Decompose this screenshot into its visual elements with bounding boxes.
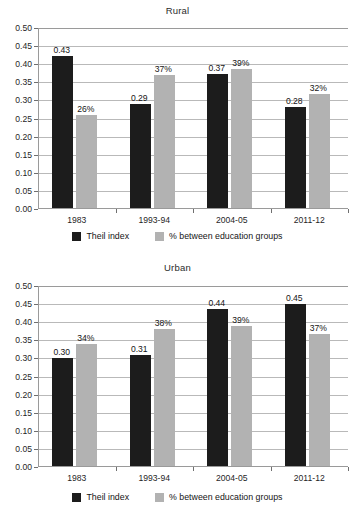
y-tick-mark: [34, 395, 38, 396]
bar-education: [76, 115, 97, 208]
y-tick-label: 0.35: [15, 78, 32, 87]
bar-theil: [207, 74, 228, 208]
bar-theil: [52, 358, 73, 466]
y-tick-label: 0.00: [15, 205, 32, 214]
bar-value-label: 0.30: [45, 348, 78, 357]
bar-education: [231, 326, 252, 466]
y-tick-label: 0.15: [15, 408, 32, 417]
x-tick-label: 2011-12: [271, 474, 349, 483]
y-tick-mark: [34, 286, 38, 287]
y-tick-mark: [34, 209, 38, 210]
bar-value-label: 39%: [224, 316, 257, 325]
legend-item-theil-urban: Theil index: [72, 493, 129, 502]
y-tick-label: 0.20: [15, 132, 32, 141]
y-tick-label: 0.10: [15, 169, 32, 178]
y-tick-label: 0.50: [15, 282, 32, 291]
x-tick-mark: [348, 467, 349, 471]
y-tick-mark: [34, 431, 38, 432]
bar-value-label: 37%: [147, 65, 180, 74]
legend-rural: Theil index % between education groups: [0, 232, 355, 241]
y-tick-mark: [34, 304, 38, 305]
y-tick-label: 0.40: [15, 60, 32, 69]
y-tick-mark: [34, 119, 38, 120]
bar-value-label: 32%: [302, 84, 335, 93]
x-tick-mark: [193, 209, 194, 213]
bar-value-label: 34%: [69, 334, 102, 343]
x-tick-label: 2011-12: [271, 216, 349, 225]
legend-item-theil-rural: Theil index: [72, 232, 129, 241]
y-tick-label: 0.25: [15, 114, 32, 123]
bar-theil: [285, 107, 306, 208]
y-tick-mark: [34, 191, 38, 192]
x-tick-mark: [116, 467, 117, 471]
legend-swatch-theil-icon: [72, 232, 81, 241]
x-tick-mark: [348, 209, 349, 213]
y-tick-mark: [34, 155, 38, 156]
bar-theil: [207, 309, 228, 466]
y-tick-label: 0.30: [15, 354, 32, 363]
legend-swatch-theil-icon: [72, 493, 81, 502]
y-tick-mark: [34, 173, 38, 174]
gridline: [39, 46, 348, 47]
y-tick-label: 0.45: [15, 42, 32, 51]
y-tick-mark: [34, 413, 38, 414]
gridline: [39, 64, 348, 65]
plot-area-rural: [38, 28, 348, 209]
y-tick-label: 0.35: [15, 336, 32, 345]
y-tick-label: 0.15: [15, 150, 32, 159]
bar-education: [154, 329, 175, 466]
bar-value-label: 39%: [224, 59, 257, 68]
x-tick-label: 1993-94: [116, 474, 194, 483]
bar-value-label: 0.45: [278, 294, 311, 303]
chart-panel-urban: Urban 0.000.050.100.150.200.250.300.350.…: [0, 255, 355, 521]
plot-rural: 0.000.050.100.150.200.250.300.350.400.45…: [0, 0, 355, 218]
y-tick-mark: [34, 467, 38, 468]
bar-value-label: 0.29: [123, 94, 156, 103]
bar-education: [309, 94, 330, 208]
legend-item-education-urban: % between education groups: [155, 493, 282, 502]
plot-urban: 0.000.050.100.150.200.250.300.350.400.45…: [0, 255, 355, 477]
footer-cropped-text: [0, 514, 355, 521]
legend-urban: Theil index % between education groups: [0, 493, 355, 502]
y-tick-label: 0.25: [15, 372, 32, 381]
bar-value-label: 0.43: [45, 46, 78, 55]
y-tick-mark: [34, 46, 38, 47]
x-tick-mark: [271, 209, 272, 213]
y-tick-label: 0.40: [15, 318, 32, 327]
legend-label-theil: Theil index: [86, 232, 129, 241]
y-tick-mark: [34, 322, 38, 323]
y-tick-mark: [34, 377, 38, 378]
y-tick-mark: [34, 64, 38, 65]
x-tick-label: 2004-05: [193, 216, 271, 225]
x-tick-label: 1983: [38, 474, 116, 483]
y-tick-label: 0.05: [15, 445, 32, 454]
y-tick-label: 0.10: [15, 427, 32, 436]
y-tick-label: 0.05: [15, 187, 32, 196]
y-tick-mark: [34, 340, 38, 341]
bar-theil: [52, 56, 73, 208]
y-tick-label: 0.00: [15, 463, 32, 472]
x-tick-label: 2004-05: [193, 474, 271, 483]
y-tick-mark: [34, 137, 38, 138]
gridline: [39, 28, 348, 29]
bar-education: [76, 344, 97, 466]
y-tick-mark: [34, 100, 38, 101]
legend-label-education: % between education groups: [169, 493, 282, 502]
bar-education: [231, 69, 252, 208]
legend-item-education-rural: % between education groups: [155, 232, 282, 241]
plot-area-urban: [38, 286, 348, 467]
bar-value-label: 0.28: [278, 97, 311, 106]
bar-value-label: 38%: [147, 319, 180, 328]
bar-theil: [130, 104, 151, 208]
x-tick-mark: [271, 467, 272, 471]
bar-education: [154, 75, 175, 208]
y-tick-mark: [34, 28, 38, 29]
x-tick-label: 1983: [38, 216, 116, 225]
chart-panel-rural: Rural 0.000.050.100.150.200.250.300.350.…: [0, 0, 355, 255]
legend-label-theil: Theil index: [86, 493, 129, 502]
gridline: [39, 286, 348, 287]
x-tick-mark: [193, 467, 194, 471]
legend-swatch-education-icon: [155, 232, 164, 241]
bar-value-label: 0.44: [200, 299, 233, 308]
bar-education: [309, 334, 330, 466]
